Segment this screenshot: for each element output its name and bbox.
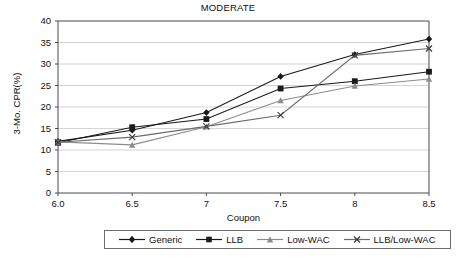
- legend-swatch-llb: [196, 234, 222, 245]
- legend-item-llb-low-wac[interactable]: LLB/Low-WAC: [344, 234, 436, 245]
- legend-label-low-wac: Low-WAC: [287, 234, 329, 245]
- legend-item-generic[interactable]: Generic: [119, 234, 182, 245]
- series-llb-low-wac: [55, 46, 432, 146]
- legend-label-generic: Generic: [149, 234, 182, 245]
- series-low-wac: [55, 76, 432, 148]
- chart-container: MODERATE 3-Mo. CPR(%) 0510152025303540 6…: [0, 0, 456, 260]
- legend-item-llb[interactable]: LLB: [196, 234, 243, 245]
- legend-label-llb: LLB: [226, 234, 243, 245]
- gridlines: [58, 43, 429, 172]
- x-axis-label: Coupon: [58, 212, 429, 223]
- legend-label-llb-low-wac: LLB/Low-WAC: [374, 234, 436, 245]
- legend-swatch-generic: [119, 234, 145, 245]
- tick-marks: [55, 21, 429, 196]
- legend-swatch-llb-low-wac: [344, 234, 370, 245]
- data-series-layer: [55, 36, 432, 148]
- legend-swatch-low-wac: [257, 234, 283, 245]
- legend-item-low-wac[interactable]: Low-WAC: [257, 234, 329, 245]
- chart-legend: Generic LLB Low-WAC LLB/Low-WAC: [104, 230, 451, 249]
